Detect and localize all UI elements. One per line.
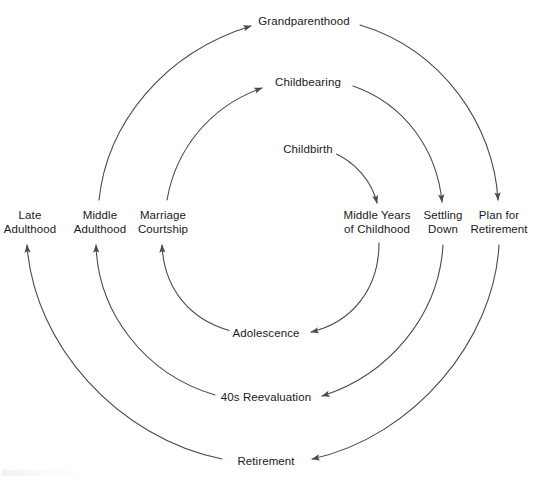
arc-childbearing-to-settling-down xyxy=(353,86,442,202)
arc-childbirth-to-middle-childhood xyxy=(332,152,377,203)
arc-40s-reevaluation-to-middle-adulthood xyxy=(96,245,215,395)
node-text-line: Adulthood xyxy=(74,222,127,234)
node-text-line: Retirement xyxy=(470,222,527,234)
node-text-line: Plan for xyxy=(479,209,519,221)
node-label-late-adulthood: Late Adulthood xyxy=(1,208,60,237)
arc-grandparenthood-to-plan-retirement xyxy=(360,25,498,200)
node-text-line: Late xyxy=(19,209,42,221)
node-label-settling-down: Settling Down xyxy=(420,208,465,237)
arc-retirement-to-late-adulthood xyxy=(27,245,222,459)
node-label-grandparenthood: Grandparenthood xyxy=(255,14,353,30)
node-label-childbearing: Childbearing xyxy=(272,75,344,91)
spiral-arcs-svg xyxy=(0,0,543,480)
node-text-line: Retirement xyxy=(237,455,294,467)
node-text-line: Adolescence xyxy=(233,327,300,339)
node-text-line: Adulthood xyxy=(4,222,57,234)
arc-marriage-to-childbearing xyxy=(167,88,262,200)
node-text-line: Courtship xyxy=(138,222,188,234)
node-text-line: 40s Reevaluation xyxy=(221,391,311,403)
node-text-line: Childbirth xyxy=(283,143,333,155)
node-text-line: Grandparenthood xyxy=(258,15,350,27)
node-label-marriage-courtship: Marriage Courtship xyxy=(135,208,191,237)
arc-settling-down-to-40s-reevaluation xyxy=(322,245,443,396)
arc-middle-childhood-to-adolescence xyxy=(311,243,379,332)
arc-middle-adulthood-to-grandparenthood xyxy=(99,26,251,200)
diagram-canvas: Childbirth Middle Years of Childhood Ado… xyxy=(0,0,543,480)
node-text-line: Middle xyxy=(83,209,117,221)
node-text-line: of Childhood xyxy=(344,222,410,234)
node-text-line: Down xyxy=(428,222,458,234)
node-label-middle-years-of-childhood: Middle Years of Childhood xyxy=(340,208,413,237)
arc-plan-retirement-to-retirement xyxy=(312,245,499,459)
node-label-adolescence: Adolescence xyxy=(230,326,303,342)
node-text-line: Middle Years xyxy=(343,209,410,221)
node-label-middle-adulthood: Middle Adulthood xyxy=(71,208,130,237)
node-label-plan-for-retirement: Plan for Retirement xyxy=(467,208,530,237)
node-text-line: Settling xyxy=(423,209,462,221)
node-text-line: Marriage xyxy=(140,209,186,221)
arc-adolescence-to-marriage xyxy=(162,245,231,331)
node-label-childbirth: Childbirth xyxy=(280,142,336,158)
node-text-line: Childbearing xyxy=(275,76,341,88)
node-label-40s-reevaluation: 40s Reevaluation xyxy=(218,390,314,406)
node-label-retirement: Retirement xyxy=(234,454,297,470)
